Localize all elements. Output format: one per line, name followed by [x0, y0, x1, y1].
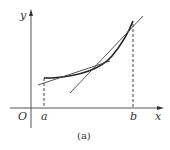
y-axis-arrow-icon — [29, 9, 33, 16]
y-axis-label: y — [19, 9, 27, 22]
x-axis-label: x — [155, 110, 162, 123]
origin-label: O — [18, 110, 27, 123]
tangent-line-right — [70, 16, 143, 93]
point-b-label: b — [130, 110, 137, 123]
diagram-canvas: y O a b x (a) — [0, 0, 170, 150]
point-a-label: a — [41, 110, 48, 123]
figure-caption: (a) — [77, 130, 91, 141]
curve — [44, 21, 133, 78]
tangent-line-left — [38, 61, 110, 85]
